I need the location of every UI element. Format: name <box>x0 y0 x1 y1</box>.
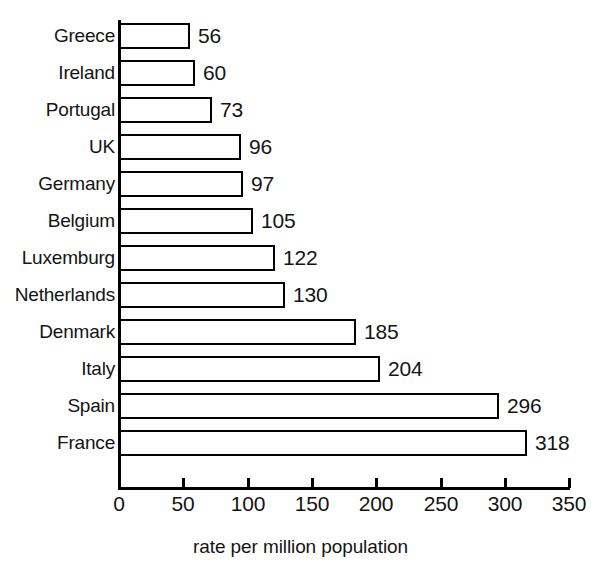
category-label-luxemburg: Luxemburg <box>22 245 115 271</box>
bar-chart: Greece 56 Ireland 60 Portugal 73 UK 96 G… <box>0 0 601 575</box>
value-label-italy: 204 <box>388 356 422 382</box>
x-axis-tick-label-250: 250 <box>424 492 458 516</box>
category-label-italy: Italy <box>81 356 115 382</box>
value-label-portugal: 73 <box>220 97 243 123</box>
bar-netherlands <box>118 282 285 308</box>
x-axis-tick-0 <box>118 478 121 488</box>
category-label-belgium: Belgium <box>48 208 115 234</box>
value-label-ireland: 60 <box>203 60 226 86</box>
bar-uk <box>118 134 241 160</box>
bar-germany <box>118 171 243 197</box>
category-label-greece: Greece <box>54 23 115 49</box>
x-axis-tick-label-300: 300 <box>488 492 522 516</box>
bar-ireland <box>118 60 195 86</box>
table-row: Ireland 60 <box>0 60 601 97</box>
bar-denmark <box>118 319 356 345</box>
x-axis-line <box>118 487 570 490</box>
x-axis-tick-label-350: 350 <box>552 492 586 516</box>
value-label-germany: 97 <box>251 171 274 197</box>
x-axis-tick-150 <box>311 478 314 488</box>
table-row: Denmark 185 <box>0 319 601 356</box>
value-label-denmark: 185 <box>364 319 398 345</box>
table-row: Greece 56 <box>0 23 601 60</box>
bar-luxemburg <box>118 245 275 271</box>
x-axis-tick-label-150: 150 <box>295 492 329 516</box>
value-label-greece: 56 <box>198 23 221 49</box>
category-label-germany: Germany <box>38 171 115 197</box>
x-axis-tick-label-0: 0 <box>113 492 124 516</box>
value-label-uk: 96 <box>249 134 272 160</box>
category-label-ireland: Ireland <box>58 60 115 86</box>
x-axis-tick-250 <box>440 478 443 488</box>
x-axis-tick-350 <box>568 478 571 488</box>
x-axis-tick-label-100: 100 <box>231 492 265 516</box>
x-axis-tick-50 <box>182 478 185 488</box>
category-label-spain: Spain <box>67 393 115 419</box>
category-label-france: France <box>57 430 115 456</box>
bar-italy <box>118 356 380 382</box>
table-row: Spain 296 <box>0 393 601 430</box>
table-row: Belgium 105 <box>0 208 601 245</box>
table-row: Portugal 73 <box>0 97 601 134</box>
value-label-france: 318 <box>535 430 569 456</box>
y-axis-line <box>118 20 121 490</box>
table-row: UK 96 <box>0 134 601 171</box>
x-axis-tick-300 <box>504 478 507 488</box>
category-label-portugal: Portugal <box>46 97 115 123</box>
table-row: Germany 97 <box>0 171 601 208</box>
table-row: Netherlands 130 <box>0 282 601 319</box>
bar-belgium <box>118 208 253 234</box>
x-axis-tick-100 <box>247 478 250 488</box>
value-label-belgium: 105 <box>261 208 295 234</box>
bar-spain <box>118 393 499 419</box>
bar-rows: Greece 56 Ireland 60 Portugal 73 UK 96 G… <box>0 23 601 467</box>
bar-portugal <box>118 97 212 123</box>
category-label-denmark: Denmark <box>39 319 115 345</box>
table-row: France 318 <box>0 430 601 467</box>
value-label-spain: 296 <box>507 393 541 419</box>
value-label-netherlands: 130 <box>293 282 327 308</box>
table-row: Italy 204 <box>0 356 601 393</box>
value-label-luxemburg: 122 <box>283 245 317 271</box>
category-label-netherlands: Netherlands <box>15 282 115 308</box>
x-axis-tick-200 <box>375 478 378 488</box>
bar-france <box>118 430 527 456</box>
bar-greece <box>118 23 190 49</box>
x-axis-title: rate per million population <box>0 536 601 558</box>
x-axis-tick-label-50: 50 <box>172 492 195 516</box>
x-axis-tick-label-200: 200 <box>359 492 393 516</box>
category-label-uk: UK <box>89 134 115 160</box>
table-row: Luxemburg 122 <box>0 245 601 282</box>
